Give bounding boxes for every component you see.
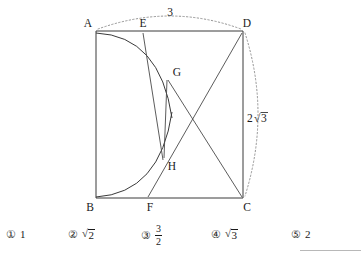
arc-from-a <box>96 33 172 118</box>
vertex-label-c: C <box>243 201 251 213</box>
option-value-1: 1 <box>20 229 26 240</box>
vertex-label-d: D <box>243 17 251 29</box>
measure-label-height: 2 √ 3 <box>247 112 268 124</box>
answer-option-4[interactable]: ④ √ 3 <box>211 228 238 242</box>
fraction-denominator: 2 <box>155 235 162 247</box>
option-marker-4: ④ <box>211 229 221 240</box>
fraction-numerator: 3 <box>155 224 162 235</box>
option-marker-5: ⑤ <box>291 229 301 240</box>
option-value-2: √ 2 <box>82 228 95 242</box>
geometry-diagram: A B C D E F G H 3 2 √ 3 <box>0 0 361 215</box>
vertex-label-b: B <box>86 201 94 213</box>
vertex-label-g: G <box>173 66 181 78</box>
segment-e-h <box>143 33 163 160</box>
vertex-label-f: F <box>147 201 153 213</box>
radical-sign-icon: √ <box>254 112 261 124</box>
option-value-4: √ 3 <box>225 228 238 242</box>
geometry-figure-container: A B C D E F G H 3 2 √ 3 <box>0 0 361 215</box>
rectangle-abcd <box>96 31 243 198</box>
arc-from-b <box>96 112 172 197</box>
answer-option-3[interactable]: ③ 3 2 <box>141 224 162 247</box>
page-bottom-rule <box>300 250 361 251</box>
segment-d-f <box>148 33 242 197</box>
answer-option-2[interactable]: ② √ 2 <box>68 228 95 242</box>
fraction-three-halves: 3 2 <box>155 224 162 247</box>
vertex-label-a: A <box>84 17 93 29</box>
answer-option-5[interactable]: ⑤ 2 <box>291 229 311 240</box>
option-value-3: 3 2 <box>155 224 162 247</box>
option-marker-1: ① <box>6 229 16 240</box>
measure-height-prefix: 2 <box>247 112 253 124</box>
option-value-5: 2 <box>305 229 311 240</box>
option-marker-2: ② <box>68 229 78 240</box>
option-2-radicand: 2 <box>88 229 95 242</box>
answer-option-1[interactable]: ① 1 <box>6 229 26 240</box>
segment-g-h <box>164 80 167 158</box>
vertex-label-h: H <box>168 160 176 172</box>
measure-label-width: 3 <box>167 6 173 18</box>
measure-height-radicand: 3 <box>261 112 267 124</box>
option-4-radicand: 3 <box>231 229 238 242</box>
option-marker-3: ③ <box>141 230 151 241</box>
vertex-label-e: E <box>139 17 146 29</box>
